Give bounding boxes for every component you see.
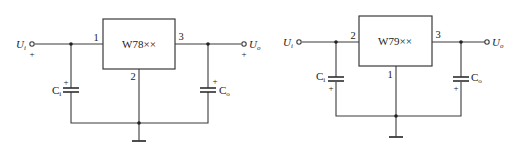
polarity-plus: + [453, 83, 458, 93]
input-capacitor: + Ci [316, 70, 345, 93]
output-polarity: + [241, 49, 246, 59]
input-polarity: + [29, 49, 34, 59]
capacitor-label: Co [219, 84, 230, 98]
negative-regulator-circuit: W79×× 2 3 1 + Ci + Co [283, 16, 504, 137]
output-terminal [242, 42, 246, 46]
polarity-plus: + [63, 77, 68, 87]
junction-dot [459, 40, 463, 44]
pin-label-ground: 2 [130, 71, 135, 82]
chip-label: W78×× [122, 38, 156, 50]
output-terminal [485, 40, 489, 44]
polarity-plus: + [328, 83, 333, 93]
output-voltage-label: Uo [249, 38, 261, 52]
output-capacitor: + Co [452, 71, 482, 93]
pin-label-output: 3 [435, 29, 440, 40]
input-terminal [297, 40, 301, 44]
junction-dot [69, 42, 73, 46]
input-terminal [30, 42, 34, 46]
capacitor-label: Ci [316, 70, 325, 84]
pin-label-input: 2 [350, 30, 355, 41]
junction-dot [206, 42, 210, 46]
junction-dot [394, 114, 398, 118]
pin-label-output: 3 [178, 31, 183, 42]
junction-dot [334, 40, 338, 44]
junction-dot [137, 121, 141, 125]
capacitor-label: Ci [52, 84, 61, 98]
output-voltage-label: Uo [492, 36, 504, 50]
output-capacitor: + Co [199, 76, 230, 98]
input-voltage-label: Ui [16, 38, 26, 52]
pin-label-ground: 1 [387, 69, 392, 80]
capacitor-label: Co [471, 71, 482, 85]
chip-label: W79×× [378, 35, 412, 47]
input-voltage-label: Ui [283, 36, 293, 50]
polarity-plus: + [212, 76, 217, 86]
positive-regulator-circuit: W78×× 1 3 2 + Ci + Co [16, 19, 261, 141]
input-capacitor: + Ci [52, 77, 80, 98]
pin-label-input: 1 [93, 32, 98, 43]
circuit-diagrams: W78×× 1 3 2 + Ci + Co [0, 0, 520, 155]
